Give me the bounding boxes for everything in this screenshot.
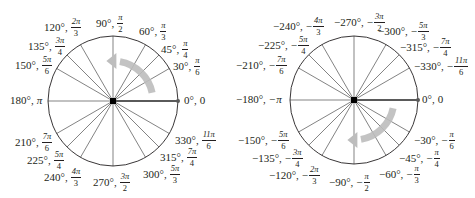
label-neg225: −225°, − 5π4 xyxy=(258,35,309,55)
fraction: π2 xyxy=(364,172,370,192)
fraction: 7π4 xyxy=(187,147,198,167)
label-neg330: −330°, − 11π6 xyxy=(414,56,468,76)
angle-spoke xyxy=(67,101,113,147)
angle-spoke xyxy=(309,100,354,145)
angle-spoke xyxy=(299,68,354,100)
angle-spoke xyxy=(57,69,113,102)
fraction: 2π3 xyxy=(309,165,320,185)
ray-endpoint-dot xyxy=(176,99,180,103)
label-0: 0°, 0 xyxy=(184,95,205,106)
label-zero-right: 0°, 0 xyxy=(422,94,443,105)
fraction: 7π6 xyxy=(276,55,287,75)
angle-spoke xyxy=(354,55,399,100)
fraction: π6 xyxy=(194,56,200,76)
angle-spoke xyxy=(354,45,386,100)
fraction: 4π3 xyxy=(71,167,82,187)
label-60: 60°, π3 xyxy=(139,21,166,41)
fraction: π6 xyxy=(449,130,455,150)
fraction: π3 xyxy=(414,164,420,184)
fraction: 2π3 xyxy=(71,17,82,37)
angle-spoke xyxy=(322,100,354,155)
label-neg180: −180°, −π xyxy=(236,94,282,105)
fraction: 5π4 xyxy=(298,35,309,55)
fraction: 7π4 xyxy=(440,37,451,57)
angle-spoke xyxy=(322,45,354,100)
ray-endpoint-dot xyxy=(416,98,420,102)
fraction: 11π6 xyxy=(454,56,468,76)
label-210: 210°, 7π6 xyxy=(15,132,52,152)
angle-spoke xyxy=(309,55,354,100)
fraction: 3π4 xyxy=(55,36,66,56)
fraction: 11π6 xyxy=(202,130,216,150)
label-240: 240°, 4π3 xyxy=(44,167,81,187)
label-neg240: −240°, − 4π3 xyxy=(273,16,324,36)
label-neg90: −90°, − π2 xyxy=(329,172,370,192)
label-neg150: −150°, − 5π6 xyxy=(238,130,289,150)
label-150: 150°, 5π6 xyxy=(15,55,52,75)
angle-spoke xyxy=(81,101,114,157)
fraction: π2 xyxy=(117,13,123,33)
fraction: π4 xyxy=(434,148,440,168)
angle-spoke xyxy=(113,101,146,157)
label-120: 120°, 2π3 xyxy=(44,17,81,37)
label-180: 180°, π xyxy=(10,95,42,106)
angle-spoke xyxy=(113,101,169,134)
label-neg210: −210°, − 7π6 xyxy=(236,55,287,75)
label-135: 135°, 3π4 xyxy=(28,36,65,56)
label-300: 300°, 5π3 xyxy=(143,164,180,184)
label-neg315: −315°, − 7π4 xyxy=(400,37,451,57)
label-330: 330°, 11π6 xyxy=(175,130,216,150)
angle-spoke xyxy=(299,100,354,132)
label-270: 270°, 3π2 xyxy=(93,172,130,192)
arrowhead-icon xyxy=(106,53,116,69)
angle-spoke xyxy=(67,55,113,101)
fraction: 4π3 xyxy=(313,16,324,36)
fraction: 5π6 xyxy=(42,55,53,75)
fraction: 7π6 xyxy=(42,132,53,152)
fraction: 5π3 xyxy=(170,164,181,184)
fraction: π3 xyxy=(160,21,166,41)
angle-spoke xyxy=(354,68,409,100)
label-30: 30°, π6 xyxy=(173,56,200,76)
angle-spoke xyxy=(113,101,159,147)
unit-circle-figure: 90°, π2 60°, π3 45°, π4 30°, π6 0°, 0 12… xyxy=(0,0,475,198)
fraction: 5π6 xyxy=(278,130,289,150)
origin-marker xyxy=(351,97,357,103)
arrowhead-icon xyxy=(347,132,357,148)
angle-spoke xyxy=(57,101,113,134)
label-neg60: −60°, − π3 xyxy=(379,164,420,184)
label-315: 315°, 7π4 xyxy=(160,147,197,167)
fraction: 3π2 xyxy=(120,172,131,192)
label-90: 90°, π2 xyxy=(96,13,123,33)
angle-spoke xyxy=(81,45,114,101)
label-neg120: −120°, − 2π3 xyxy=(269,165,320,185)
label-neg270: −270°, − 3π2 xyxy=(334,12,385,32)
origin-marker xyxy=(110,98,116,104)
